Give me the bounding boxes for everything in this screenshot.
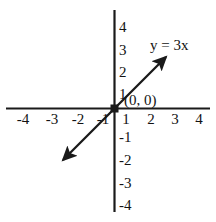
x-tick-label--2: -2 xyxy=(72,112,85,127)
y-tick-label--4: -4 xyxy=(119,198,132,213)
y-tick-label--2: -2 xyxy=(119,153,132,168)
y-tick-label-2: 2 xyxy=(119,65,127,80)
equation-label: y = 3x xyxy=(150,38,188,53)
x-tick-label-2: 2 xyxy=(147,112,155,127)
x-tick-label--4: -4 xyxy=(17,112,30,127)
x-tick-label--1: -1 xyxy=(97,112,110,127)
coordinate-plane-figure: -4 -3 -2 -1 1 2 3 4 4 3 2 1 -1 -2 -3 -4 … xyxy=(0,0,216,222)
origin-point-label: (0, 0) xyxy=(124,93,157,108)
origin-marker xyxy=(111,105,119,113)
y-tick-label-3: 3 xyxy=(119,43,127,58)
x-tick-label--3: -3 xyxy=(46,112,59,127)
y-tick-label-4: 4 xyxy=(119,20,127,35)
y-tick-label--3: -3 xyxy=(119,176,132,191)
x-tick-label-3: 3 xyxy=(171,112,179,127)
x-tick-label-1: 1 xyxy=(122,112,130,127)
y-tick-label--1: -1 xyxy=(119,130,132,145)
x-tick-label-4: 4 xyxy=(195,112,203,127)
